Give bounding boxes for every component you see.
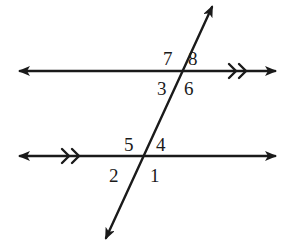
angle-label-7: 7 xyxy=(163,48,173,69)
angle-label-4: 4 xyxy=(156,134,166,155)
diagram-canvas: 7 8 3 6 5 4 2 1 xyxy=(0,0,300,244)
angle-label-6: 6 xyxy=(184,78,194,99)
angle-label-5: 5 xyxy=(124,134,134,155)
bottom-parallel-line xyxy=(20,149,275,163)
transversal-line xyxy=(106,7,212,238)
angle-label-8: 8 xyxy=(188,48,198,69)
angle-label-1: 1 xyxy=(150,165,160,186)
angle-label-3: 3 xyxy=(157,78,167,99)
top-parallel-line xyxy=(20,64,275,78)
angle-label-2: 2 xyxy=(109,165,119,186)
diagram-svg: 7 8 3 6 5 4 2 1 xyxy=(0,0,300,244)
